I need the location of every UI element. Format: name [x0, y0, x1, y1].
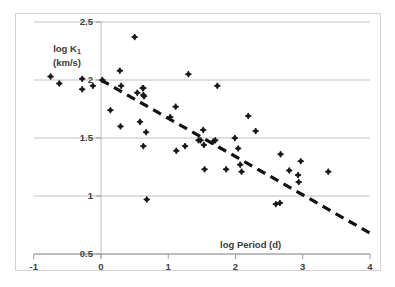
data-point-14-v — [143, 85, 145, 91]
data-point-9-v — [120, 123, 122, 129]
x-tick-label-4: 4 — [350, 261, 390, 272]
data-point-8-v — [120, 83, 122, 89]
data-point-6-v — [110, 107, 112, 113]
data-point-33-v — [225, 166, 227, 172]
data-point-39-v — [255, 128, 256, 134]
data-point-18-v — [145, 129, 147, 135]
y-tick-label-1.5: 1.5 — [47, 132, 93, 143]
data-point-43-v — [289, 167, 291, 173]
data-point-44-v — [297, 172, 299, 178]
x-tick-label--1: -1 — [14, 261, 54, 272]
x-tick-label-3: 3 — [283, 261, 323, 272]
data-point-23-v — [184, 143, 186, 149]
data-point-40-v — [275, 201, 277, 207]
data-point-45-v — [298, 179, 300, 185]
y-axis-title-line2: (km/s) — [53, 57, 81, 68]
x-axis-title: log Period (d) — [220, 239, 281, 250]
data-point-16-v — [143, 93, 145, 99]
data-point-46-v — [300, 158, 302, 164]
data-point-29-v — [204, 166, 206, 172]
y-tick-label-0.5: 0.5 — [47, 248, 93, 259]
data-point-5-v — [102, 77, 104, 83]
data-point-20-v — [170, 114, 172, 120]
y-axis-title-line1: log K1 — [53, 43, 81, 54]
data-point-26-v — [200, 137, 202, 143]
data-point-24-v — [188, 71, 190, 77]
data-point-12-v — [139, 119, 141, 125]
data-point-32-v — [217, 83, 219, 89]
data-point-17-v — [143, 143, 145, 149]
data-point-19-v — [146, 196, 148, 202]
y-axis-title: log K1 (km/s) — [36, 42, 98, 69]
data-point-3-v — [81, 86, 83, 92]
y-tick-label-2: 2 — [47, 74, 93, 85]
data-point-41-v — [279, 200, 281, 206]
y-tick-label-2.5: 2.5 — [47, 16, 93, 27]
data-point-22-v — [176, 148, 178, 154]
trendline-dashed — [101, 80, 370, 233]
data-point-27-v — [202, 127, 204, 133]
data-point-42-v — [280, 151, 282, 157]
data-point-10-v — [134, 34, 136, 40]
data-point-34-v — [234, 135, 236, 141]
data-point-47-v — [328, 169, 330, 175]
data-point-38-v — [248, 113, 250, 119]
trendline — [101, 80, 370, 233]
data-point-28-v — [203, 142, 205, 148]
data-point-11-v — [137, 90, 139, 96]
data-point-36-v — [239, 162, 241, 168]
y-axis-title-subscript: 1 — [77, 48, 81, 55]
x-tick-label-1: 1 — [148, 261, 188, 272]
x-tick-label-0: 0 — [81, 261, 121, 272]
x-tick-label-2: 2 — [216, 261, 256, 272]
data-point-37-v — [241, 169, 243, 175]
data-point-35-v — [237, 145, 239, 151]
data-point-31-v — [215, 137, 217, 143]
y-tick-label-1: 1 — [47, 190, 93, 201]
data-point-21-v — [175, 104, 177, 110]
data-point-7-v — [119, 68, 121, 74]
scatter-plot-figure: log K1 (km/s) log Period (d) -1012340.51… — [0, 0, 395, 287]
